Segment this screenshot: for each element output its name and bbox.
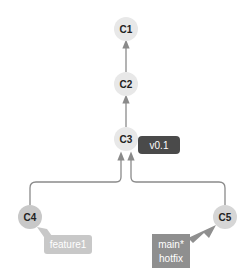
branch-label-hotfix: hotfix <box>159 253 183 264</box>
commit-c4[interactable]: C4 <box>18 205 42 229</box>
commit-c5[interactable]: C5 <box>213 205 237 229</box>
commit-graph: C1 C2 C3 C4 C5 v0.1 feature1 main* hotfi… <box>0 0 252 280</box>
branch-pointer-arrow <box>188 225 216 243</box>
commit-label-c5: C5 <box>219 212 232 223</box>
branch-label-main: main* <box>158 239 184 250</box>
commit-c1[interactable]: C1 <box>114 17 138 41</box>
branch-label-feature1: feature1 <box>50 239 87 250</box>
commit-label-c3: C3 <box>120 134 133 145</box>
edges <box>30 44 225 205</box>
commit-label-c2: C2 <box>120 79 133 90</box>
tag-v0-1[interactable]: v0.1 <box>138 136 180 154</box>
edge-c4-c3 <box>30 156 121 205</box>
tag-label-v0-1: v0.1 <box>150 140 169 151</box>
edge-c5-c3 <box>131 156 225 205</box>
commit-label-c4: C4 <box>24 212 37 223</box>
branch-feature1[interactable]: feature1 <box>37 227 92 254</box>
commit-label-c1: C1 <box>120 24 133 35</box>
commit-c2[interactable]: C2 <box>114 72 138 96</box>
commit-c3[interactable]: C3 <box>114 127 138 151</box>
branch-main-hotfix[interactable]: main* hotfix <box>152 225 216 268</box>
